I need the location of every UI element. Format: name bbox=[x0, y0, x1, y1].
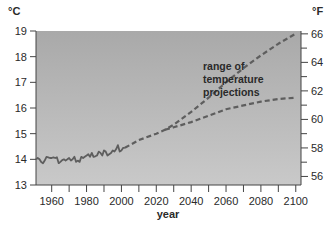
y-tick-label: 18 bbox=[15, 51, 27, 63]
annotation-line-1: range of bbox=[203, 60, 245, 72]
x-tick-label: 2020 bbox=[144, 195, 168, 207]
y-tick-label: 19 bbox=[15, 25, 27, 37]
y-tick-label: 13 bbox=[15, 179, 27, 191]
y-right-tick-label: 66 bbox=[311, 28, 323, 40]
y-tick-label: 17 bbox=[15, 76, 27, 88]
y-right-tick-label: 64 bbox=[311, 56, 323, 68]
y-axis-label-celsius: °C bbox=[8, 5, 20, 17]
x-tick-label: 2000 bbox=[109, 195, 133, 207]
annotation-line-2: temperature bbox=[203, 73, 264, 85]
y-axis-label-fahrenheit: °F bbox=[312, 5, 323, 17]
x-tick-label: 2040 bbox=[179, 195, 203, 207]
x-tick-label: 2100 bbox=[284, 195, 308, 207]
x-tick-label: 1960 bbox=[39, 195, 63, 207]
x-tick-label: 2080 bbox=[249, 195, 273, 207]
y-tick-label: 14 bbox=[15, 153, 27, 165]
x-axis-title: year bbox=[157, 208, 180, 220]
temperature-chart: 1314151617181956586062646619601980200020… bbox=[0, 0, 336, 232]
x-tick-label: 1980 bbox=[74, 195, 98, 207]
y-right-tick-label: 56 bbox=[311, 170, 323, 182]
y-right-tick-label: 60 bbox=[311, 113, 323, 125]
y-right-tick-label: 62 bbox=[311, 85, 323, 97]
annotation-line-3: projections bbox=[203, 86, 260, 98]
x-tick-label: 2060 bbox=[214, 195, 238, 207]
y-tick-label: 15 bbox=[15, 128, 27, 140]
y-tick-label: 16 bbox=[15, 102, 27, 114]
y-right-tick-label: 58 bbox=[311, 142, 323, 154]
